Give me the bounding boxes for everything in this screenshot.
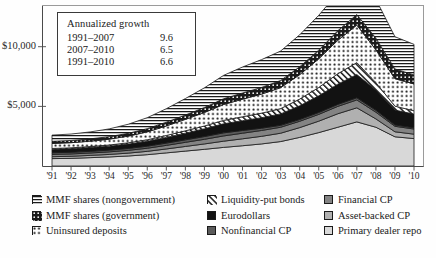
legend-item[interactable]: MMF shares (government): [32, 208, 207, 224]
legend-item[interactable]: Asset-backed CP: [324, 208, 436, 224]
legend-label: Financial CP: [338, 194, 393, 205]
legend-item[interactable]: Financial CP: [324, 192, 436, 208]
legend-swatch-icon: [324, 211, 333, 220]
annotation-row: 1991–20106.6: [67, 56, 187, 68]
legend-item[interactable]: Uninsured deposits: [32, 223, 207, 239]
legend-label: Liquidity-put bonds: [221, 194, 305, 205]
legend-swatch-icon: [207, 195, 216, 204]
legend-column: Liquidity-put bondsEurodollarsNonfinanci…: [207, 192, 324, 239]
annotation-period: 1991–2010: [67, 56, 137, 68]
annualized-growth-box: Annualized growth 1991–20079.62007–20106…: [57, 12, 196, 76]
legend-label: Primary dealer repo: [338, 225, 421, 236]
annotation-value: 6.5: [137, 44, 173, 56]
legend-column: Financial CPAsset-backed CPPrimary deale…: [324, 192, 436, 239]
legend-swatch-icon: [324, 195, 333, 204]
legend-swatch-icon: [32, 195, 41, 204]
legend-swatch-icon: [207, 226, 216, 235]
annotation-period: 1991–2007: [67, 32, 137, 44]
annotation-rows: 1991–20079.62007–20106.51991–20106.6: [67, 32, 187, 69]
annotation-title: Annualized growth: [67, 18, 187, 29]
y-axis-label: $5,000: [0, 99, 36, 110]
annotation-period: 2007–2010: [67, 44, 137, 56]
legend-label: Nonfinancial CP: [221, 225, 291, 236]
legend-item[interactable]: MMF shares (nongovernment): [32, 192, 207, 208]
x-axis-label: '10: [403, 171, 425, 181]
legend-item[interactable]: Nonfinancial CP: [207, 223, 324, 239]
y-axis-label: $10,000: [0, 40, 36, 51]
legend-swatch-icon: [32, 211, 41, 220]
annotation-row: 1991–20079.6: [67, 32, 187, 44]
legend-item[interactable]: Eurodollars: [207, 208, 324, 224]
chart-legend: MMF shares (nongovernment)MMF shares (go…: [32, 192, 436, 239]
legend-swatch-icon: [32, 226, 41, 235]
legend-column: MMF shares (nongovernment)MMF shares (go…: [32, 192, 207, 239]
legend-item[interactable]: Primary dealer repo: [324, 223, 436, 239]
legend-item[interactable]: Liquidity-put bonds: [207, 192, 324, 208]
annotation-value: 6.6: [137, 56, 173, 68]
annotation-value: 9.6: [137, 32, 173, 44]
legend-swatch-icon: [207, 211, 216, 220]
legend-label: Eurodollars: [221, 210, 270, 221]
legend-label: MMF shares (nongovernment): [46, 194, 175, 205]
annotation-row: 2007–20106.5: [67, 44, 187, 56]
legend-swatch-icon: [324, 226, 333, 235]
chart-figure: $5,000$10,000 '91'92'93'94'95'96'97'98'9…: [0, 0, 436, 258]
legend-label: MMF shares (government): [46, 210, 159, 221]
legend-label: Uninsured deposits: [46, 225, 127, 236]
legend-label: Asset-backed CP: [338, 210, 410, 221]
